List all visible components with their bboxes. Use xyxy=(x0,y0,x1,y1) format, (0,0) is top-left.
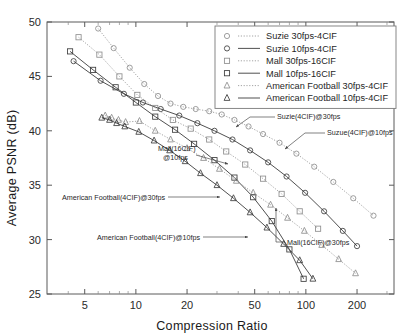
y-tick-label: 25 xyxy=(29,288,41,300)
legend-item-label: Mall 30fps-16CIF xyxy=(266,56,336,66)
x-tick-label: 50 xyxy=(249,299,261,311)
y-tick-label: 50 xyxy=(29,16,41,28)
y-tick-label: 35 xyxy=(29,179,41,191)
x-axis-title: Compression Ratio xyxy=(156,319,267,333)
legend-item-label: Suzie 10fps-4CIF xyxy=(266,44,337,54)
x-tick-label: 10 xyxy=(130,299,142,311)
y-tick-label: 30 xyxy=(29,234,41,246)
legend-item-label: American Football 30fps-4CIF xyxy=(266,81,388,91)
x-tick-label: 20 xyxy=(181,299,193,311)
legend-item-label: American Football 10fps-4CIF xyxy=(266,93,388,103)
annotation-mall-10fps-line2: @10fps xyxy=(163,153,188,162)
annotation-suzie-10fps: Suzue(4CIF)@10fps xyxy=(327,128,393,137)
legend-item-label: Mall 10fps-16CIF xyxy=(266,69,336,79)
psnr-compression-chart: 253035404550 5102050100200 Average PSNR … xyxy=(0,0,408,336)
annotation-mall-10fps-line1: Mall(16CIF) xyxy=(158,144,196,153)
y-tick-label: 45 xyxy=(29,70,41,82)
annotation-af-10fps: American Football(4CIF)@10fps xyxy=(97,233,201,242)
annotation-mall-30fps: Mall(16CIF)@30fps xyxy=(287,238,350,247)
x-tick-label: 200 xyxy=(348,299,366,311)
chart-legend: Suzie 30fps-4CIFSuzie 10fps-4CIFMall 30f… xyxy=(215,26,396,108)
annotation-suzie-30fps: Suzie(4CIF)@30fps xyxy=(277,112,341,121)
y-tick-label: 40 xyxy=(29,125,41,137)
y-axis-title: Average PSNR (dB) xyxy=(5,110,19,227)
x-tick-label: 5 xyxy=(82,299,88,311)
annotation-af-30fps: American Football(4CIF)@30fps xyxy=(62,193,166,202)
legend-item-label: Suzie 30fps-4CIF xyxy=(266,31,337,41)
x-tick-label: 100 xyxy=(297,299,315,311)
chart-figure: 253035404550 5102050100200 Average PSNR … xyxy=(0,0,408,336)
